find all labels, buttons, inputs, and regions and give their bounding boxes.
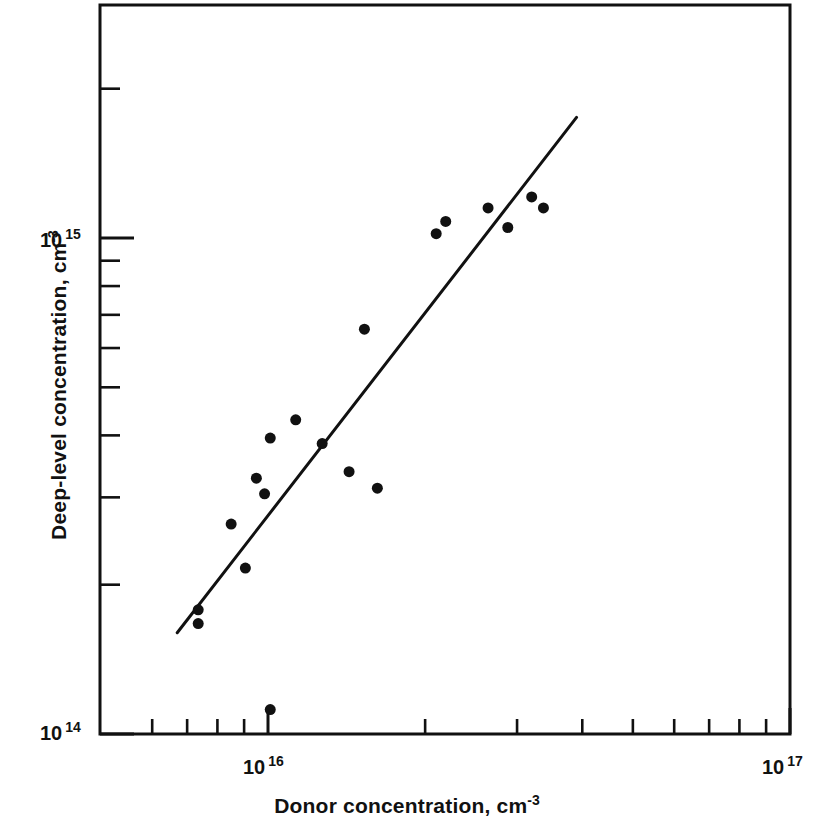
data-point bbox=[440, 216, 451, 227]
y-axis-title-wrapper: Deep-level concentration, cm-3 bbox=[45, 35, 75, 735]
y-axis-title-text: Deep-level concentration, cm bbox=[47, 243, 70, 540]
data-point bbox=[193, 618, 204, 629]
x-tick-1e17-exponent: 17 bbox=[787, 753, 803, 769]
y-axis-title: Deep-level concentration, cm-3 bbox=[45, 230, 71, 540]
data-point bbox=[290, 414, 301, 425]
x-axis-title: Donor concentration, cm-3 bbox=[0, 792, 814, 818]
x-tick-1e16-base: 10 bbox=[243, 756, 265, 778]
data-point bbox=[538, 202, 549, 213]
trend-line bbox=[177, 117, 576, 632]
x-axis-title-exponent: -3 bbox=[527, 792, 539, 808]
data-point bbox=[502, 222, 513, 233]
data-point bbox=[193, 604, 204, 615]
x-tick-1e17-base: 10 bbox=[762, 756, 784, 778]
trend-line-segment bbox=[177, 117, 576, 632]
data-point bbox=[265, 704, 276, 715]
axis-ticks bbox=[100, 89, 790, 734]
data-point bbox=[317, 438, 328, 449]
data-point bbox=[265, 433, 276, 444]
x-tick-label-1e16: 1016 bbox=[243, 753, 284, 779]
x-tick-1e16-exponent: 16 bbox=[268, 753, 284, 769]
data-points bbox=[193, 191, 549, 715]
data-point bbox=[226, 519, 237, 530]
y-axis-title-exponent: -3 bbox=[45, 230, 61, 242]
data-point bbox=[359, 324, 370, 335]
data-point bbox=[259, 488, 270, 499]
data-point bbox=[431, 228, 442, 239]
data-point bbox=[483, 202, 494, 213]
x-tick-label-1e17: 1017 bbox=[762, 753, 803, 779]
data-point bbox=[344, 466, 355, 477]
data-point bbox=[251, 473, 262, 484]
scatter-plot-svg bbox=[0, 0, 814, 830]
data-point bbox=[372, 483, 383, 494]
figure-container: 1015 1014 1016 1017 Donor concentration,… bbox=[0, 0, 814, 830]
data-point bbox=[240, 563, 251, 574]
data-point bbox=[526, 191, 537, 202]
x-axis-title-text: Donor concentration, cm bbox=[274, 794, 527, 817]
